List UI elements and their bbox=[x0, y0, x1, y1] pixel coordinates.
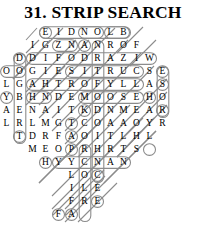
grid-cell: L bbox=[78, 182, 91, 195]
grid-cell: H bbox=[91, 143, 104, 156]
grid-cell: G bbox=[13, 78, 26, 91]
grid-cell: D bbox=[26, 52, 39, 65]
grid-cell: E bbox=[91, 182, 104, 195]
grid-cell: N bbox=[91, 39, 104, 52]
grid-cell: T bbox=[65, 104, 78, 117]
grid-cell: L bbox=[117, 78, 130, 91]
grid-cell: Y bbox=[52, 156, 65, 169]
grid-row: HYYCNAN bbox=[39, 156, 130, 169]
grid-cell: I bbox=[91, 130, 104, 143]
grid-cell: R bbox=[39, 130, 52, 143]
grid-cell: L bbox=[143, 130, 156, 143]
grid-cell: A bbox=[0, 104, 13, 117]
grid-row: FA bbox=[52, 208, 78, 221]
grid-cell: S bbox=[130, 143, 143, 156]
grid-cell: F bbox=[130, 39, 143, 52]
grid-cell: A bbox=[117, 117, 130, 130]
grid-cell: T bbox=[104, 130, 117, 143]
grid-cell: R bbox=[91, 52, 104, 65]
grid-cell: L bbox=[65, 169, 78, 182]
grid-cell: I bbox=[65, 182, 78, 195]
grid-cell: Z bbox=[52, 39, 65, 52]
grid-row: FRE bbox=[65, 195, 104, 208]
grid-cell: A bbox=[39, 104, 52, 117]
grid-cell: R bbox=[78, 143, 91, 156]
grid-cell: O bbox=[130, 117, 143, 130]
grid-cell: W bbox=[143, 52, 156, 65]
grid-cell: O bbox=[13, 65, 26, 78]
grid-cell: R bbox=[65, 78, 78, 91]
grid-row: MEOPRHRTS bbox=[26, 143, 143, 156]
grid-cell: A bbox=[26, 78, 39, 91]
grid-cell: T bbox=[52, 78, 65, 91]
grid-cell: R bbox=[78, 195, 91, 208]
grid-cell: O bbox=[78, 169, 91, 182]
grid-cell: S bbox=[65, 65, 78, 78]
grid-row: LOC bbox=[65, 169, 104, 182]
word-search-puzzle: 31. STRIP SEARCH bbox=[0, 0, 206, 240]
grid-cell: C bbox=[130, 65, 143, 78]
grid-cell: L bbox=[0, 117, 13, 130]
grid-cell: R bbox=[104, 65, 117, 78]
grid-cell: G bbox=[26, 65, 39, 78]
grid-cell: L bbox=[117, 130, 130, 143]
grid-cell: R bbox=[13, 117, 26, 130]
grid-cell: I bbox=[39, 65, 52, 78]
grid-cell: O bbox=[0, 65, 13, 78]
grid-row: LRLMGTCOAAOYR bbox=[0, 117, 169, 130]
grid-row: DDIFODRAZIW bbox=[13, 52, 156, 65]
grid-cell: O bbox=[52, 143, 65, 156]
grid-row: AENAITKDNMEAR bbox=[0, 104, 169, 117]
grid-cell: R bbox=[156, 117, 169, 130]
grid-cell: D bbox=[26, 130, 39, 143]
grid-cell: A bbox=[65, 130, 78, 143]
grid-cell: H bbox=[26, 91, 39, 104]
grid-cell: C bbox=[78, 117, 91, 130]
grid-cell: R bbox=[104, 143, 117, 156]
grid-cell: N bbox=[91, 156, 104, 169]
grid-row: LGAHTROFYLLAS bbox=[0, 78, 169, 91]
grid-cell: E bbox=[130, 91, 143, 104]
grid-cell: N bbox=[26, 104, 39, 117]
grid-cell: S bbox=[143, 65, 156, 78]
grid-cell: M bbox=[78, 91, 91, 104]
grid-cell: U bbox=[117, 65, 130, 78]
grid-cell: F bbox=[52, 52, 65, 65]
grid-cell: M bbox=[26, 143, 39, 156]
grid-cell: I bbox=[26, 39, 39, 52]
grid-cell: T bbox=[91, 65, 104, 78]
grid-cell: P bbox=[65, 143, 78, 156]
grid-cell: I bbox=[52, 26, 65, 39]
grid-cell: O bbox=[91, 26, 104, 39]
grid-cell: A bbox=[65, 208, 78, 221]
grid-cell: A bbox=[78, 39, 91, 52]
grid-cell: F bbox=[65, 195, 78, 208]
grid-row: OOGIESITRUCSE bbox=[0, 65, 169, 78]
grid-cell: E bbox=[39, 26, 52, 39]
grid-cell: O bbox=[104, 91, 117, 104]
grid-cell: O bbox=[156, 91, 169, 104]
grid-row: YBHNDEMOOSEHO bbox=[0, 91, 169, 104]
grid-cell: E bbox=[39, 143, 52, 156]
grid-cell: O bbox=[65, 52, 78, 65]
grid-cell: A bbox=[143, 104, 156, 117]
grid-cell: T bbox=[13, 130, 26, 143]
grid-cell: S bbox=[117, 91, 130, 104]
grid-cell: C bbox=[91, 169, 104, 182]
grid-cell: R bbox=[156, 104, 169, 117]
grid-cell: O bbox=[91, 91, 104, 104]
grid-cell: B bbox=[13, 91, 26, 104]
grid-cell: A bbox=[143, 78, 156, 91]
grid-cell: E bbox=[156, 65, 169, 78]
grid-cell: E bbox=[130, 104, 143, 117]
grid-cell: Y bbox=[104, 78, 117, 91]
grid-cell: N bbox=[39, 91, 52, 104]
grid-cell: R bbox=[104, 39, 117, 52]
grid-cell: F bbox=[52, 130, 65, 143]
grid-cell: G bbox=[39, 39, 52, 52]
grid-cell: E bbox=[52, 65, 65, 78]
grid-cell: L bbox=[26, 117, 39, 130]
grid-cell: N bbox=[104, 104, 117, 117]
grid-cell: I bbox=[130, 52, 143, 65]
grid-cell: C bbox=[78, 156, 91, 169]
